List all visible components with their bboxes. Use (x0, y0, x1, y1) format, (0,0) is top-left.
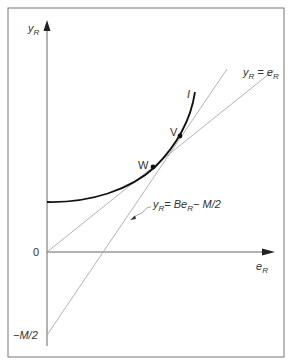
y-axis-label: yR (27, 22, 40, 37)
frame-border (8, 8, 284, 357)
point-w-label: W (138, 159, 149, 171)
indifference-curve (47, 92, 195, 202)
point-v-marker (178, 134, 183, 139)
origin-label: 0 (33, 246, 39, 258)
leader-arrow-icon (130, 216, 136, 221)
diagram-canvas: yR eR 0 −M/2 I W V yR = eR yR= BeR− M/2 (0, 0, 292, 364)
intercept-label: −M/2 (13, 329, 38, 341)
curve-label: I (187, 88, 190, 100)
point-w-marker (151, 165, 156, 170)
identity-line-label: yR = eR (242, 66, 279, 81)
x-axis-label: eR (256, 260, 268, 275)
x-axis-arrow-icon (262, 249, 275, 256)
y-axis-arrow-icon (44, 20, 51, 31)
leader-squiggle (133, 207, 151, 218)
point-v-label: V (170, 126, 178, 138)
budget-line-label: yR= BeR− M/2 (152, 198, 221, 213)
